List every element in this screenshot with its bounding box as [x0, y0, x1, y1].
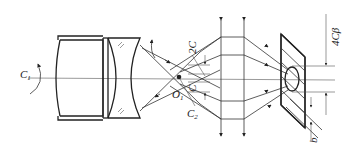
point-o1	[177, 75, 182, 80]
optical-axis	[28, 78, 335, 80]
label-2c: 2C	[186, 41, 198, 55]
rotation-arrow-c1	[30, 64, 41, 94]
label-4cbeta: 4Cβ	[329, 27, 341, 46]
rotation-arrow-small	[151, 40, 155, 58]
label-b: b	[307, 137, 319, 143]
optical-diagram: C1 O1 C2 2C C	[0, 0, 349, 153]
reticle-circle	[285, 67, 299, 91]
convex-lens	[108, 38, 116, 118]
label-c2: C2	[187, 107, 198, 121]
label-c1: C1	[20, 68, 31, 82]
label-o1: O1	[172, 88, 183, 102]
label-c: C	[186, 84, 198, 92]
concave-lens	[108, 38, 140, 118]
